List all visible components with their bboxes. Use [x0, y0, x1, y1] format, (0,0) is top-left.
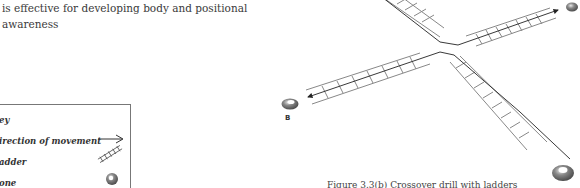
ladder-bottom-right [450, 56, 547, 150]
figure-caption: Figure 3.3(b) Crossover drill with ladde… [327, 180, 517, 188]
crossover-drill-diagram [0, 0, 580, 188]
movement-path-2 [308, 52, 570, 159]
legend-cone-icon [106, 173, 118, 185]
ladder-top-right [466, 8, 556, 46]
cone-icon-bottom-right [552, 165, 574, 181]
cone-icon-b [282, 99, 299, 110]
cone-icon-top-right [566, 3, 578, 12]
cone-label-b: B [285, 114, 290, 122]
legend-arrow-icon [98, 135, 123, 143]
movement-path-1 [378, 0, 558, 45]
ladder-top-left [372, 0, 444, 37]
legend-ladder-icon [97, 145, 122, 164]
ladder-left [306, 53, 430, 104]
